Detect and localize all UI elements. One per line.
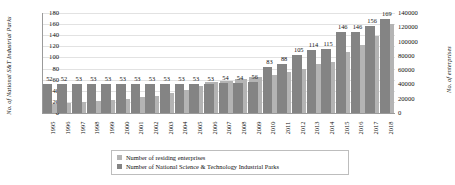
x-tick-label: 2016 — [357, 122, 364, 135]
x-tick: 2014 — [321, 115, 336, 149]
x-axis-labels: 1995199619971998199920002001200220032004… — [42, 115, 394, 149]
bar-value-label: 53 — [208, 76, 214, 82]
x-tick-label: 2004 — [181, 122, 188, 135]
bar-group: 53 — [145, 13, 160, 113]
x-tick: 1998 — [86, 115, 101, 149]
x-tick: 1996 — [57, 115, 72, 149]
x-tick: 2018 — [379, 115, 394, 149]
x-tick: 2016 — [350, 115, 365, 149]
bar-value-label: 53 — [193, 76, 199, 82]
legend-item: Number of residing enterprises — [117, 153, 343, 162]
bar-value-label: 53 — [90, 76, 96, 82]
bar-group: 53 — [159, 13, 174, 113]
x-tick: 2003 — [159, 115, 174, 149]
x-tick-label: 2006 — [211, 122, 218, 135]
x-tick: 2001 — [130, 115, 145, 149]
bar-group: 53 — [203, 13, 218, 113]
bar-group: 105 — [291, 13, 306, 113]
bar-national-parks — [57, 84, 67, 113]
bar-group: 114 — [306, 13, 321, 113]
x-tick: 2006 — [203, 115, 218, 149]
y-tick-label-right: 140000 — [398, 10, 432, 17]
bar-group: 53 — [101, 13, 116, 113]
y-tick-label-right: 100000 — [398, 39, 432, 46]
y-axis-left-title: No. of National S&T Industrial Parks — [5, 4, 12, 128]
bar-national-parks — [365, 26, 375, 113]
x-tick: 2011 — [277, 115, 292, 149]
bar-national-parks — [321, 49, 331, 113]
x-tick: 2009 — [247, 115, 262, 149]
bar-national-parks — [263, 67, 273, 113]
bar-value-label: 105 — [294, 47, 304, 53]
x-tick-label: 2000 — [123, 122, 130, 135]
bar-group: 88 — [277, 13, 292, 113]
x-tick: 2008 — [233, 115, 248, 149]
x-tick: 1995 — [42, 115, 57, 149]
bar-group: 53 — [71, 13, 86, 113]
bar-national-parks — [204, 84, 214, 113]
x-tick: 2000 — [115, 115, 130, 149]
bar-group: 115 — [321, 13, 336, 113]
bar-value-label: 53 — [134, 76, 140, 82]
bar-value-label: 169 — [382, 11, 392, 17]
bar-value-label: 53 — [105, 76, 111, 82]
chart-legend: Number of residing enterprisesNumber of … — [111, 150, 349, 175]
bar-national-parks — [43, 84, 53, 113]
bar-group: 53 — [86, 13, 101, 113]
bar-value-label: 156 — [367, 18, 377, 24]
bar-group: 53 — [130, 13, 145, 113]
bar-group: 146 — [350, 13, 365, 113]
y-tick-label-right: 60000 — [398, 67, 432, 74]
x-tick-label: 1997 — [79, 122, 86, 135]
x-tick: 2002 — [145, 115, 160, 149]
x-tick: 2007 — [218, 115, 233, 149]
bar-group: 53 — [115, 13, 130, 113]
bar-national-parks — [248, 82, 258, 113]
x-tick-label: 2014 — [328, 122, 335, 135]
bar-group: 54 — [218, 13, 233, 113]
x-tick-label: 2013 — [313, 122, 320, 135]
bar-national-parks — [307, 50, 317, 113]
bar-group: 146 — [335, 13, 350, 113]
bar-value-label: 56 — [252, 74, 258, 80]
bar-group: 83 — [262, 13, 277, 113]
x-tick-label: 1995 — [49, 122, 56, 135]
x-tick-label: 2017 — [372, 122, 379, 135]
bar-national-parks — [160, 84, 170, 113]
y-tick-label-right: 120000 — [398, 24, 432, 31]
y-tick-label-right: 40000 — [398, 81, 432, 88]
legend-item: Number of National Science & Technology … — [117, 162, 343, 171]
bar-group: 53 — [189, 13, 204, 113]
x-tick: 2015 — [335, 115, 350, 149]
bar-series-group: 5252535353535353535353535454568388105114… — [42, 13, 394, 113]
bar-national-parks — [351, 32, 361, 113]
x-tick: 2005 — [189, 115, 204, 149]
x-tick-label: 2011 — [284, 122, 291, 135]
x-tick: 2010 — [262, 115, 277, 149]
y-axis-right-title: No. of enterprises — [445, 22, 452, 118]
bar-value-label: 88 — [281, 56, 287, 62]
x-tick-label: 1999 — [108, 122, 115, 135]
bar-value-label: 54 — [222, 75, 228, 81]
legend-label: Number of residing enterprises — [126, 154, 205, 161]
x-tick-label: 1996 — [64, 122, 71, 135]
gridline — [43, 113, 395, 114]
chart-container: No. of National S&T Industrial Parks No.… — [0, 0, 455, 185]
bar-national-parks — [277, 64, 287, 113]
x-tick: 2017 — [365, 115, 380, 149]
x-tick-label: 2007 — [225, 122, 232, 135]
bar-value-label: 53 — [75, 76, 81, 82]
x-tick-label: 2008 — [240, 122, 247, 135]
x-tick-label: 2010 — [269, 122, 276, 135]
x-tick: 2013 — [306, 115, 321, 149]
bar-national-parks — [380, 19, 390, 113]
y-tick-label-right: 20000 — [398, 96, 432, 103]
x-tick-label: 2003 — [167, 122, 174, 135]
legend-swatch — [117, 155, 122, 160]
x-tick-label: 2005 — [196, 122, 203, 135]
y-tick-label-right: 0 — [398, 110, 432, 117]
bar-value-label: 53 — [178, 76, 184, 82]
legend-swatch — [117, 164, 122, 169]
x-tick-label: 2001 — [137, 122, 144, 135]
bar-group: 54 — [233, 13, 248, 113]
